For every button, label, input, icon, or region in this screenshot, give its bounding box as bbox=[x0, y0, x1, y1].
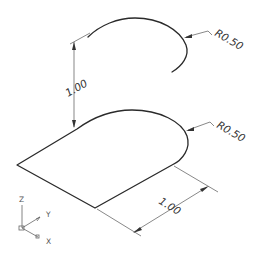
vertical-height-label: 1.00 bbox=[63, 76, 90, 98]
ucs-icon: Z Y X bbox=[19, 195, 51, 246]
top-radius-label: R0.50 bbox=[213, 26, 246, 52]
ucs-x-label: X bbox=[46, 237, 51, 246]
vertical-height-dimension: 1.00 bbox=[63, 33, 90, 128]
top-arc bbox=[88, 18, 187, 72]
cad-drawing-canvas: R0.50 1.00 R0.50 1.00 Z Y X bbox=[0, 0, 267, 254]
bottom-radius-leader: R0.50 bbox=[186, 118, 248, 144]
ucs-y-label: Y bbox=[45, 210, 51, 219]
bottom-face bbox=[17, 110, 188, 208]
bottom-radius-label: R0.50 bbox=[215, 118, 248, 144]
ucs-z-label: Z bbox=[19, 195, 24, 204]
top-radius-leader: R0.50 bbox=[184, 26, 246, 52]
bottom-length-label: 1.00 bbox=[157, 195, 183, 218]
bottom-length-dimension: 1.00 bbox=[97, 166, 218, 236]
